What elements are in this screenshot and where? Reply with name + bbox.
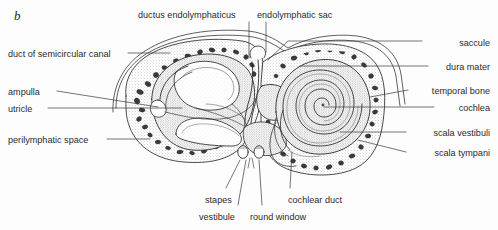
leader-round-window [259,160,262,205]
leader-stapes [226,160,240,188]
label-utricle: utricle [8,105,32,114]
label-saccule: saccule [459,39,490,48]
label-scala-vestibuli: scala vestibuli [433,129,490,138]
membranous-labyrinth-left [150,54,256,150]
label-vestibule: vestibule [199,213,235,222]
label-cochlea: cochlea [459,104,490,113]
leader-vestibule [238,160,246,205]
label-ampulla: ampulla [8,88,40,97]
label-duct-of-semicircular-canal: duct of semicircular canal [8,50,111,59]
label-temporal-bone: temporal bone [432,87,490,96]
label-endolymphatic-sac: endolymphatic sac [257,11,332,20]
label-perilymphatic-space: perilymphatic space [8,136,88,145]
label-cochlear-duct: cochlear duct [288,196,342,205]
label-dura-mater: dura mater [446,63,490,72]
label-ductus-endolymphaticus: ductus endolymphaticus [138,11,236,20]
label-scala-tympani: scala tympani [434,149,490,158]
label-round-window: round window [250,213,306,222]
label-stapes: stapes [205,196,232,205]
inner-ear-diagram [0,0,498,230]
